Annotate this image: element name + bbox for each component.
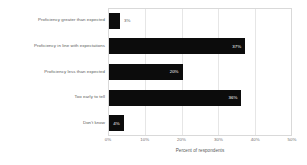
- bar-wrapper: 20%: [109, 64, 183, 80]
- bar-wrapper: 36%: [109, 90, 241, 106]
- bar-wrapper: 4%: [109, 115, 124, 131]
- bar-value-label: 36%: [229, 95, 242, 100]
- bar-value-label: 20%: [170, 69, 183, 74]
- x-tick-label: 40%: [251, 137, 260, 142]
- table-row: Proficiency less than expected 20%: [0, 59, 307, 85]
- table-row: Too early to tell 36%: [0, 85, 307, 111]
- bar-wrapper: 3%: [109, 13, 130, 29]
- bar[interactable]: [109, 13, 120, 29]
- bar-chart: Proficiency greater than expected 3% Pro…: [0, 0, 307, 165]
- category-label: Proficiency greater than expected: [0, 18, 105, 23]
- bar[interactable]: 20%: [109, 64, 183, 80]
- bar[interactable]: 36%: [109, 90, 241, 106]
- bar-value-label: 37%: [232, 44, 245, 49]
- bar-value-label: 3%: [120, 18, 130, 23]
- category-label: Proficiency in line with expectations: [0, 44, 105, 49]
- bar-rows: Proficiency greater than expected 3% Pro…: [0, 8, 307, 136]
- bar-value-label: 4%: [113, 121, 123, 126]
- table-row: Proficiency in line with expectations 37…: [0, 34, 307, 60]
- x-tick-label: 20%: [177, 137, 186, 142]
- x-tick-label: 0%: [105, 137, 111, 142]
- bar[interactable]: 37%: [109, 38, 245, 54]
- category-label: Proficiency less than expected: [0, 70, 105, 75]
- x-tick-label: 10%: [140, 137, 149, 142]
- bar-wrapper: 37%: [109, 38, 245, 54]
- table-row: Proficiency greater than expected 3%: [0, 8, 307, 34]
- table-row: Don't know 4%: [0, 110, 307, 136]
- x-axis-title: Percent of respondents: [108, 148, 292, 153]
- x-tick-label: 50%: [288, 137, 297, 142]
- x-tick-label: 30%: [214, 137, 223, 142]
- category-label: Too early to tell: [0, 95, 105, 100]
- bar[interactable]: 4%: [109, 115, 124, 131]
- category-label: Don't know: [0, 121, 105, 126]
